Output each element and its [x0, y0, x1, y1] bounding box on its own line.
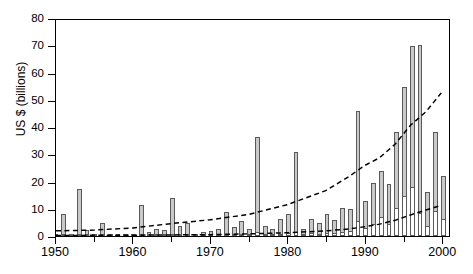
bar-group [371, 19, 376, 236]
bar-group [55, 19, 58, 236]
x-axis-tick-label: 1960 [107, 246, 157, 259]
x-axis-tick [132, 237, 133, 244]
bar-group [201, 19, 206, 236]
bar-group [61, 19, 66, 236]
bar-total-losses [294, 152, 299, 236]
bar-group [239, 19, 244, 236]
bar-insured-losses [61, 234, 66, 236]
bar-insured-losses [108, 234, 113, 236]
x-axis-tick [210, 237, 211, 244]
y-axis-tick [48, 101, 55, 102]
bar-insured-losses [356, 221, 361, 236]
bar-insured-losses [263, 234, 268, 236]
y-axis-tick [48, 183, 55, 184]
bar-group [294, 19, 299, 236]
bar-insured-losses [348, 231, 353, 236]
y-axis-tick [48, 210, 55, 211]
bar-insured-losses [410, 187, 415, 236]
bar-insured-losses [131, 234, 136, 236]
bar-group [209, 19, 214, 236]
bar-insured-losses [286, 233, 291, 236]
bar-group [185, 19, 190, 236]
bar-insured-losses [69, 234, 74, 236]
bar-insured-losses [92, 234, 97, 236]
bar-insured-losses [55, 234, 58, 236]
bar-insured-losses [371, 224, 376, 236]
bar-group [131, 19, 136, 236]
bar-group [232, 19, 237, 236]
y-axis-tick-label: 80 [31, 13, 44, 25]
bar-group [193, 19, 198, 236]
x-axis-tick-label: 1970 [185, 246, 235, 259]
bar-insured-losses [340, 232, 345, 236]
y-axis-tick-label: 10 [31, 204, 44, 216]
y-axis-title: US $ (billions) [14, 34, 28, 164]
bar-group [255, 19, 260, 236]
bar-insured-losses [209, 234, 214, 236]
bar-insured-losses [193, 234, 198, 236]
bar-insured-losses [232, 234, 237, 236]
bar-insured-losses [216, 234, 221, 236]
y-axis-tick-label: 50 [31, 95, 44, 107]
bar-group [410, 19, 415, 236]
bar-total-losses [356, 111, 361, 236]
bar-insured-losses [294, 232, 299, 236]
bar-insured-losses [317, 234, 322, 236]
x-axis-tick-label: 1980 [262, 246, 312, 259]
bar-group [379, 19, 384, 236]
bar-group [100, 19, 105, 236]
bar-group [69, 19, 74, 236]
y-axis-tick-label: 0 [38, 231, 44, 243]
bar-insured-losses [270, 234, 275, 236]
bar-group [402, 19, 407, 236]
bar-total-losses [77, 189, 82, 236]
x-axis-tick [287, 237, 288, 244]
bar-group [170, 19, 175, 236]
bar-insured-losses [441, 219, 446, 236]
y-axis-tick-label: 70 [31, 40, 44, 52]
bar-insured-losses [247, 234, 252, 236]
bar-group [425, 19, 430, 236]
bar-group [325, 19, 330, 236]
bar-group [286, 19, 291, 236]
y-axis-tick-label: 30 [31, 149, 44, 161]
chart-container: US $ (billions) 010203040506070801950196… [0, 0, 473, 274]
bar-group [224, 19, 229, 236]
y-axis-tick [48, 128, 55, 129]
bar-group [270, 19, 275, 236]
x-axis-tick [55, 237, 56, 244]
bar-total-losses [61, 214, 66, 236]
bar-group [348, 19, 353, 236]
bar-group [108, 19, 113, 236]
bar-insured-losses [116, 234, 121, 236]
y-axis-tick-label: 20 [31, 177, 44, 189]
x-axis-minor-tick [404, 237, 405, 242]
bar-insured-losses [309, 233, 314, 236]
bar-group [263, 19, 268, 236]
y-axis-tick-label: 40 [31, 122, 44, 134]
bar-group [116, 19, 121, 236]
x-axis-minor-tick [249, 237, 250, 242]
bars-layer [56, 20, 449, 236]
x-axis-tick-label: 1990 [340, 246, 390, 259]
bar-group [139, 19, 144, 236]
bar-group [178, 19, 183, 236]
bar-insured-losses [394, 208, 399, 236]
bar-group [216, 19, 221, 236]
x-axis-minor-tick [171, 237, 172, 242]
bar-total-losses [418, 45, 423, 236]
bar-group [301, 19, 306, 236]
y-axis-tick [48, 19, 55, 20]
bar-group [317, 19, 322, 236]
bar-insured-losses [255, 232, 260, 236]
bar-group [92, 19, 97, 236]
x-axis-minor-tick [94, 237, 95, 242]
bar-total-losses [170, 198, 175, 236]
bar-insured-losses [154, 234, 159, 236]
x-axis-tick-label: 1950 [30, 246, 80, 259]
bar-group [162, 19, 167, 236]
y-axis-tick [48, 155, 55, 156]
bar-insured-losses [147, 234, 152, 236]
bar-insured-losses [418, 213, 423, 236]
bar-insured-losses [325, 233, 330, 236]
